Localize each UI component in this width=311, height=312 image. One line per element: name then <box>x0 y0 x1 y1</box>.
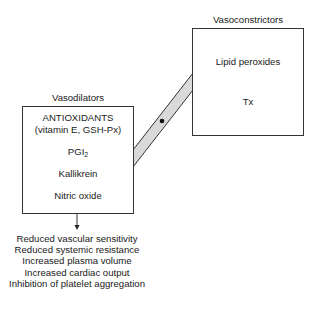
item-antioxidants-detail: (vitamin E, GSH-Px) <box>23 124 133 135</box>
pivot-dot-icon <box>160 119 165 124</box>
effect-item: Increased cardiac output <box>0 267 154 278</box>
effect-item: Inhibition of platelet aggregation <box>0 278 154 289</box>
vasodilators-box: ANTIOXIDANTS (vitamin E, GSH-Px) PGI2 Ka… <box>22 106 134 214</box>
pgi-base: PGI <box>68 146 85 157</box>
item-tx: Tx <box>193 96 303 107</box>
vasodilators-title: Vasodilators <box>22 92 134 103</box>
item-nitric-oxide: Nitric oxide <box>23 190 133 201</box>
effect-item: Reduced vascular sensitivity <box>0 233 154 244</box>
effects-list: Reduced vascular sensitivity Reduced sys… <box>0 233 154 289</box>
arrow-down-icon <box>75 225 80 230</box>
item-pgi2: PGI2 <box>23 146 133 157</box>
item-kallikrein: Kallikrein <box>23 168 133 179</box>
effect-item: Reduced systemic resistance <box>0 244 154 255</box>
item-lipid-peroxides: Lipid peroxides <box>193 56 303 67</box>
effect-item: Increased plasma volume <box>0 255 154 266</box>
pgi-subscript: 2 <box>84 151 88 158</box>
vasoconstrictors-box: Lipid peroxides Tx <box>192 28 304 136</box>
item-antioxidants: ANTIOXIDANTS <box>23 112 133 123</box>
vasoconstrictors-title: Vasoconstrictors <box>192 14 304 25</box>
